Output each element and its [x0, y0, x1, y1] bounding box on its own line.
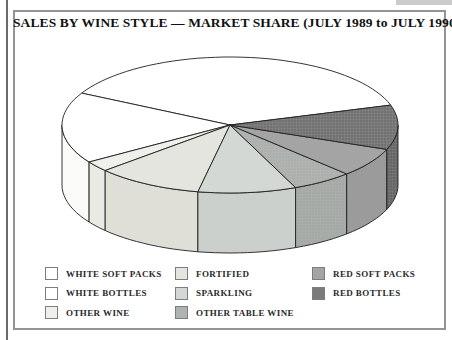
- legend-column-2: FORTIFIEDSPARKLINGOTHER TABLE WINE: [175, 267, 294, 326]
- legend-item-white-soft-packs: WHITE SOFT PACKS: [45, 267, 162, 280]
- legend-item-fortified: FORTIFIED: [175, 267, 294, 280]
- legend-column-1: WHITE SOFT PACKSWHITE BOTTLESOTHER WINE: [45, 267, 162, 326]
- legend-item-sparkling: SPARKLING: [175, 287, 294, 300]
- legend-swatch-other-wine: [45, 306, 58, 319]
- legend-label-other-table-wine: OTHER TABLE WINE: [196, 308, 294, 318]
- legend-label-red-soft-packs: RED SOFT PACKS: [333, 269, 415, 279]
- legend-swatch-sparkling: [175, 287, 188, 300]
- legend-item-white-bottles: WHITE BOTTLES: [45, 287, 162, 300]
- legend-label-white-soft-packs: WHITE SOFT PACKS: [66, 269, 162, 279]
- legend-item-other-wine: OTHER WINE: [45, 306, 162, 319]
- legend-swatch-white-soft-packs: [45, 267, 58, 280]
- pie-slice-side-sparkling: [198, 188, 296, 253]
- legend-column-3: RED SOFT PACKSRED BOTTLES: [312, 267, 415, 306]
- legend-label-red-bottles: RED BOTTLES: [333, 288, 401, 298]
- legend-label-other-wine: OTHER WINE: [66, 308, 130, 318]
- legend: WHITE SOFT PACKSWHITE BOTTLESOTHER WINE …: [0, 267, 452, 327]
- legend-label-white-bottles: WHITE BOTTLES: [66, 288, 147, 298]
- legend-item-red-bottles: RED BOTTLES: [312, 287, 415, 300]
- legend-swatch-red-soft-packs: [312, 267, 325, 280]
- legend-label-sparkling: SPARKLING: [196, 288, 252, 298]
- legend-swatch-white-bottles: [45, 287, 58, 300]
- legend-swatch-fortified: [175, 267, 188, 280]
- legend-item-red-soft-packs: RED SOFT PACKS: [312, 267, 415, 280]
- legend-swatch-red-bottles: [312, 287, 325, 300]
- legend-label-fortified: FORTIFIED: [196, 269, 249, 279]
- legend-swatch-other-table-wine: [175, 306, 188, 319]
- legend-item-other-table-wine: OTHER TABLE WINE: [175, 306, 294, 319]
- pie-slice-side-other-wine: [89, 162, 105, 231]
